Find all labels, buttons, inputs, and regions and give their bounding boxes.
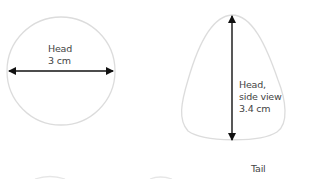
- head-side-label: Head, side view 3.4 cm: [239, 79, 282, 115]
- head-side-label-line3: 3.4 cm: [239, 103, 282, 115]
- head-front-label-line1: Head: [48, 43, 72, 55]
- head-front-label: Head 3 cm: [48, 43, 72, 67]
- head-side-label-line2: side view: [239, 91, 282, 103]
- head-front-label-line2: 3 cm: [48, 55, 72, 67]
- tail-shape-partial-left: [35, 177, 65, 180]
- head-side-outline: [182, 15, 285, 140]
- tail-shape-partial-right: [150, 177, 172, 179]
- head-side-label-line1: Head,: [239, 79, 282, 91]
- tail-label: Tail: [251, 163, 266, 175]
